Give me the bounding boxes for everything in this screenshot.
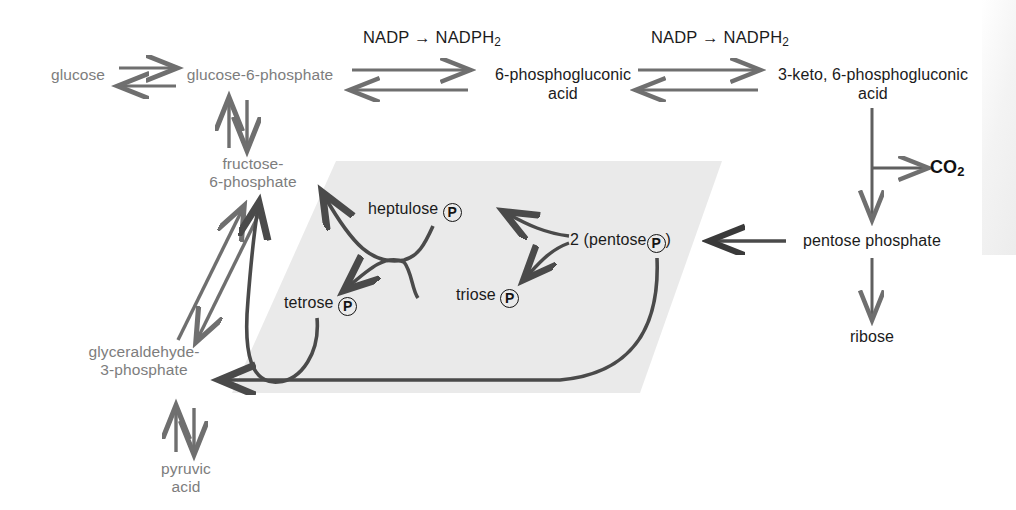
scan-edge-artifact (982, 0, 1016, 255)
label-heptulose-phosphate: heptulose P (368, 200, 498, 222)
shaded-region-parallelogram (232, 161, 722, 393)
pyruvic-line-2: acid (172, 478, 201, 495)
phosphogluconic-line-2: acid (548, 85, 578, 102)
cofactor-1-text: NADP → NADPH (363, 28, 494, 46)
label-cofactor-nadp-1: NADP → NADPH2 (330, 28, 534, 49)
phosphate-circle-icon-tetrose: P (338, 297, 357, 316)
ketophosphogluconic-line-1: 3-keto, 6-phosphogluconic (778, 66, 968, 83)
label-triose-phosphate: triose P (456, 286, 566, 308)
edge-ketophosphogluconic-to-pentose-phosphate (872, 108, 926, 218)
label-glyceraldehyde-3-phosphate: glyceraldehyde- 3-phosphate (62, 343, 226, 379)
label-cofactor-nadp-2: NADP → NADPH2 (618, 28, 822, 49)
phosphogluconic-line-1: 6-phosphogluconic (495, 66, 631, 83)
phosphate-circle-icon-pentose: P (647, 234, 666, 253)
tetrose-text: tetrose (284, 294, 334, 311)
edge-glucose6p-to-fructose6p (229, 100, 247, 148)
cofactor-1-subscript: 2 (494, 35, 501, 49)
heptulose-text: heptulose (368, 200, 438, 217)
label-tetrose-phosphate: tetrose P (284, 294, 404, 316)
pathway-diagram: glucose glucose-6-phosphate NADP → NADPH… (0, 0, 1016, 510)
cofactor-2-subscript: 2 (782, 35, 789, 49)
pentose-pair-prefix: 2 (pentose (570, 231, 647, 248)
label-pentose-phosphate: pentose phosphate (782, 232, 962, 251)
label-ribose: ribose (822, 328, 922, 347)
label-fructose-6-phosphate: fructose- 6-phosphate (182, 155, 324, 191)
label-pyruvic-acid: pyruvic acid (130, 460, 242, 496)
glyceraldehyde3p-line-1: glyceraldehyde- (89, 343, 200, 360)
label-co2: CO2 (930, 157, 990, 179)
label-pentose-pair: 2 (pentoseP) (570, 231, 730, 253)
cofactor-2-text: NADP → NADPH (651, 28, 782, 46)
label-glucose: glucose (32, 66, 124, 84)
co2-subscript: 2 (957, 164, 964, 179)
pentose-pair-suffix: ) (666, 231, 671, 248)
phosphate-circle-icon-triose: P (500, 289, 519, 308)
phosphate-circle-icon-heptulose: P (443, 203, 462, 222)
co2-text: CO (930, 157, 957, 177)
triose-text: triose (456, 286, 496, 303)
glyceraldehyde3p-line-2: 3-phosphate (100, 361, 187, 378)
label-3-keto-6-phosphogluconic-acid: 3-keto, 6-phosphogluconic acid (752, 66, 994, 103)
pyruvic-line-1: pyruvic (161, 460, 211, 477)
ketophosphogluconic-line-2: acid (858, 85, 888, 102)
fructose6p-line-2: 6-phosphate (209, 173, 296, 190)
edge-glucose6p-to-phosphogluconic (352, 70, 468, 90)
edge-glyceraldehyde3p-to-pyruvic (176, 408, 194, 452)
label-6-phosphogluconic-acid: 6-phosphogluconic acid (468, 66, 658, 103)
fructose6p-line-1: fructose- (222, 155, 283, 172)
label-glucose-6-phosphate: glucose-6-phosphate (166, 66, 354, 84)
